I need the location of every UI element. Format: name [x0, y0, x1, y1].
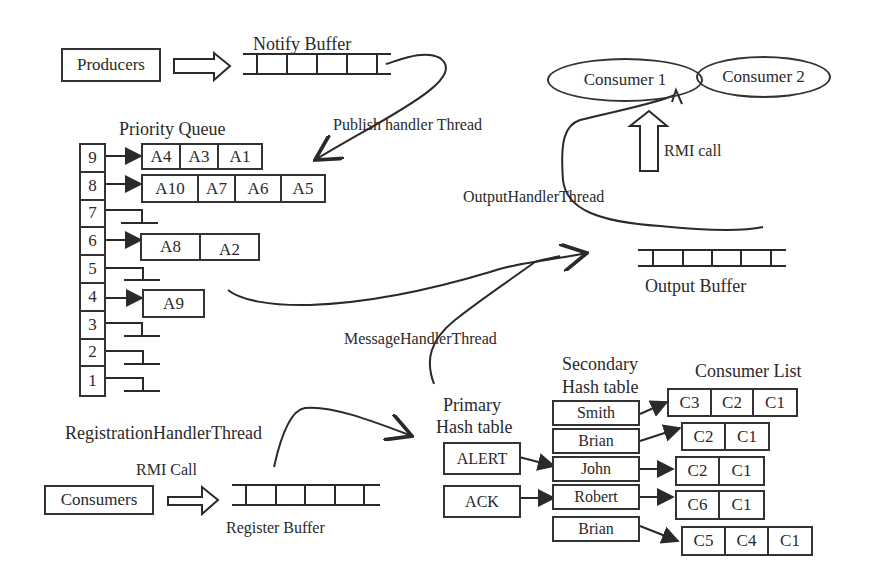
consumer-item: C1	[720, 492, 763, 518]
consumer-item: C3	[669, 390, 712, 415]
message-thread-label: MessageHandlerThread	[344, 331, 497, 347]
primary-hash-entry-label: ACK	[465, 493, 499, 511]
publish-thread-label: Publish handler Thread	[333, 117, 482, 133]
producers-label: Producers	[77, 55, 145, 75]
secondary-hash-title-2: Hash table	[562, 378, 638, 396]
consumer-item: C1	[769, 528, 811, 554]
output-thread-label: OutputHandlerThread	[463, 189, 604, 205]
secondary-hash-entry-label: Brian	[578, 520, 614, 538]
pq-item: A8	[142, 235, 201, 259]
consumer-item: C1	[726, 424, 768, 449]
consumer-2-node: Consumer 2	[696, 56, 831, 98]
pq-item: A4	[143, 145, 181, 168]
consumer-list-row: C2 C1	[681, 422, 770, 451]
secondary-hash-entry: Brian	[552, 428, 640, 454]
secondary-hash-entry: Brian	[552, 516, 640, 542]
pq-level: 3	[81, 312, 104, 340]
pq-level: 6	[81, 228, 104, 256]
output-thread-curve	[562, 95, 763, 230]
rmi-up-arrow	[630, 111, 667, 171]
registration-thread-arrow	[274, 408, 412, 467]
pq-row-6: A8 A2	[140, 233, 260, 261]
rmi-call-bottom-arrow	[168, 487, 218, 514]
pq-level: 1	[81, 367, 104, 395]
rmi-call-bottom-label: RMI Call	[136, 462, 197, 478]
primary-hash-entry: ACK	[443, 485, 521, 518]
pq-item: A9	[144, 291, 203, 316]
priority-queue-title: Priority Queue	[119, 120, 225, 138]
notify-buffer-title: Notify Buffer	[253, 35, 351, 53]
publish-thread-arrow	[315, 55, 446, 160]
producers-box: Producers	[61, 48, 161, 82]
notify-buffer-icon	[243, 54, 391, 74]
consumer-item: C1	[754, 390, 796, 415]
consumer-list-row: C6 C1	[675, 490, 765, 520]
consumer-item: C2	[677, 458, 720, 484]
consumer-1-node: Consumer 1	[547, 58, 703, 102]
consumer-item: C5	[683, 528, 726, 554]
primary-hash-title-2: Hash table	[436, 418, 512, 436]
pq-level: 2	[81, 340, 104, 368]
consumer-list-title: Consumer List	[695, 362, 802, 380]
pq-item: A2	[201, 235, 258, 259]
pq-level: 9	[81, 145, 104, 173]
secondary-hash-entry-label: John	[581, 460, 611, 478]
consumers-label: Consumers	[61, 490, 138, 510]
consumer-2-label: Consumer 2	[722, 67, 805, 87]
pq-item: A6	[236, 176, 282, 201]
secondary-hash-title-1: Secondary	[562, 355, 638, 373]
pq-level: 5	[81, 256, 104, 284]
consumer-item: C6	[677, 492, 720, 518]
consumer-item: C4	[726, 528, 769, 554]
consumers-box: Consumers	[44, 485, 154, 515]
secondary-hash-entry-label: Smith	[577, 404, 615, 422]
pq-level: 4	[81, 284, 104, 312]
pq-item: A5	[282, 176, 324, 201]
pq-row-8: A10 A7 A6 A5	[141, 174, 326, 203]
secondary-hash-entry: John	[552, 456, 640, 482]
consumer-list-row: C3 C2 C1	[667, 388, 798, 417]
rmi-call-top-label: RMI call	[664, 143, 721, 159]
output-buffer-icon	[638, 250, 786, 266]
pq-item: A7	[199, 176, 236, 201]
primary-hash-entry-label: ALERT	[457, 450, 508, 468]
consumer-item: C2	[712, 390, 754, 415]
pq-item: A3	[181, 145, 219, 168]
register-buffer-icon	[232, 485, 380, 505]
secondary-hash-entry: Smith	[552, 400, 640, 426]
register-buffer-title: Register Buffer	[226, 520, 325, 536]
consumer-item: C2	[683, 424, 726, 449]
pq-level: 8	[81, 173, 104, 201]
priority-queue-levels: 9 8 7 6 5 4 3 2 1	[79, 143, 106, 397]
consumer-list-row: C5 C4 C1	[681, 526, 813, 556]
producers-arrow	[174, 53, 230, 80]
consumer-1-label: Consumer 1	[584, 70, 667, 90]
registration-thread-label: RegistrationHandlerThread	[65, 424, 262, 442]
output-buffer-title: Output Buffer	[645, 277, 746, 295]
pq-level: 7	[81, 201, 104, 229]
pq-item: A1	[219, 145, 261, 168]
pq-row-9: A4 A3 A1	[141, 143, 263, 170]
pq-row-4: A9	[142, 289, 205, 318]
secondary-hash-entry-label: Brian	[578, 432, 614, 450]
consumer-item: C1	[720, 458, 763, 484]
secondary-hash-entry: Robert	[552, 484, 640, 510]
primary-hash-entry: ALERT	[443, 442, 521, 475]
consumer-list-row: C2 C1	[675, 456, 765, 486]
primary-hash-title-1: Primary	[443, 396, 501, 414]
secondary-hash-entry-label: Robert	[574, 488, 618, 506]
message-thread-arrow	[228, 253, 587, 305]
pq-item: A10	[143, 176, 199, 201]
